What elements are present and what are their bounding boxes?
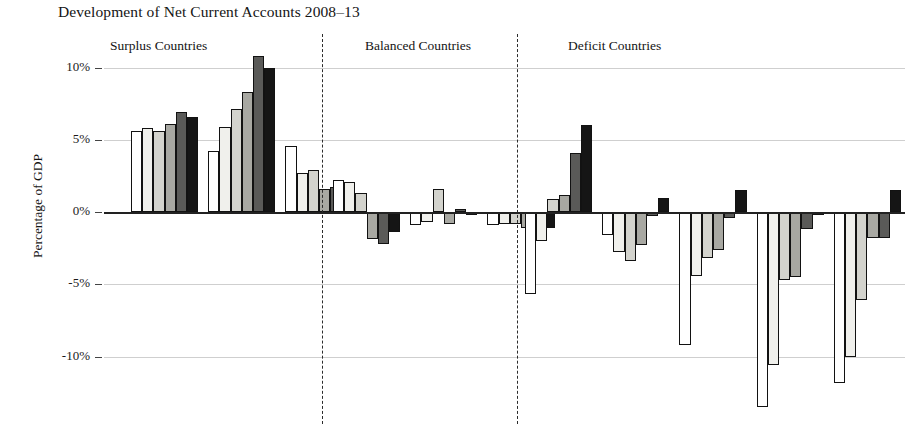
bar [570, 153, 581, 212]
bar [253, 56, 264, 212]
bar [735, 190, 746, 212]
bar [165, 124, 176, 212]
bar [389, 212, 400, 232]
bar [613, 212, 624, 252]
bar [231, 109, 242, 212]
bar [131, 131, 142, 212]
bar [790, 212, 801, 277]
bar [153, 131, 164, 212]
bar [487, 212, 498, 225]
bar [768, 212, 779, 365]
section-label: Surplus Countries [110, 38, 207, 54]
bar [757, 212, 768, 407]
bar [308, 170, 319, 212]
bar [510, 212, 521, 224]
bar [187, 117, 198, 212]
bar [867, 212, 878, 238]
bar [713, 212, 724, 250]
bar [208, 151, 219, 212]
bar [845, 212, 856, 357]
bar [879, 212, 890, 238]
bar [367, 212, 378, 239]
bar [344, 182, 355, 212]
bar [219, 127, 230, 212]
bar [264, 68, 275, 213]
bar [834, 212, 845, 383]
bar [333, 180, 344, 212]
bar [285, 146, 296, 212]
bar [625, 212, 636, 261]
bar [679, 212, 690, 345]
bar [433, 189, 444, 212]
bar [779, 212, 790, 280]
bar [444, 212, 455, 224]
bar [142, 128, 153, 212]
bar [559, 195, 570, 212]
zero-line [104, 212, 905, 214]
bar [176, 112, 187, 212]
bar [801, 212, 812, 229]
bar [602, 212, 613, 235]
bar [378, 212, 389, 244]
bar [890, 190, 901, 212]
bar [242, 92, 253, 212]
bar [658, 198, 669, 212]
section-label: Balanced Countries [365, 38, 471, 54]
bar [547, 199, 558, 212]
section-divider [517, 34, 518, 424]
bar [410, 212, 421, 225]
bar [702, 212, 713, 258]
bar [525, 212, 536, 294]
section-label: Deficit Countries [568, 38, 661, 54]
bar [856, 212, 867, 300]
bar [499, 212, 510, 224]
bar [636, 212, 647, 245]
bar [319, 189, 330, 212]
bar [355, 193, 366, 212]
bar [581, 125, 592, 212]
plot-area: Percentage of GDP 10%5%0%-5%-10% Surplus… [0, 0, 909, 424]
figure-container: Development of Net Current Accounts 2008… [0, 0, 909, 424]
bar [691, 212, 702, 276]
bar [297, 173, 308, 212]
section-divider [322, 34, 323, 424]
bar [536, 212, 547, 241]
